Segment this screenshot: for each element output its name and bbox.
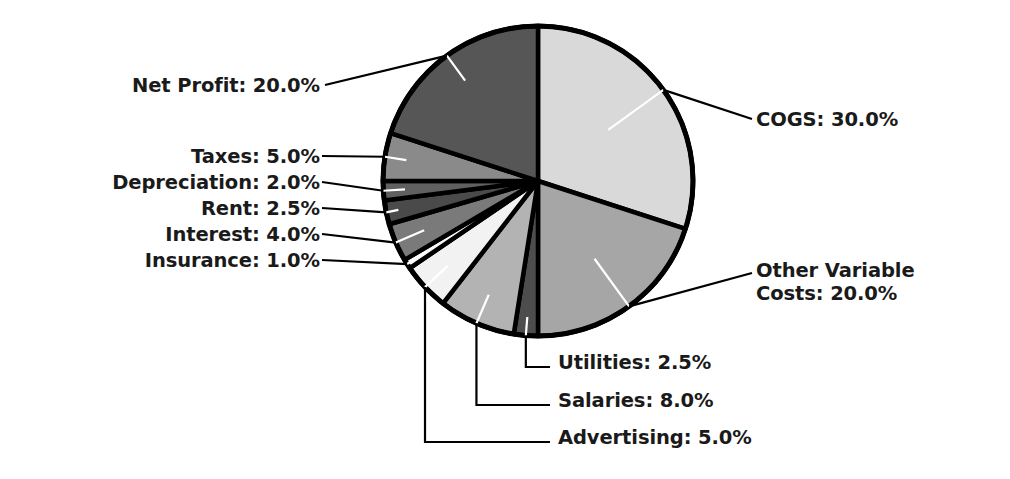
pie-slices-group xyxy=(383,26,693,336)
slice-label-rent: Rent: 2.5% xyxy=(201,197,320,220)
pie-chart-canvas xyxy=(0,0,1010,479)
pie-chart-figure: Net Profit: 20.0% Taxes: 5.0% Depreciati… xyxy=(0,0,1010,479)
leader-line-interest xyxy=(322,234,396,243)
slice-label-other-variable-costs-line1: Other Variable xyxy=(756,259,915,282)
slice-label-depreciation: Depreciation: 2.0% xyxy=(112,171,320,194)
slice-label-other-variable-costs-line2: Costs: 20.0% xyxy=(756,282,897,305)
slice-label-salaries: Salaries: 8.0% xyxy=(558,389,713,412)
leader-line-rent xyxy=(322,208,386,212)
leader-line-depreciation-inner xyxy=(383,189,405,190)
leader-line-depreciation xyxy=(322,182,383,191)
slice-label-net-profit: Net Profit: 20.0% xyxy=(132,74,320,97)
slice-label-cogs: COGS: 30.0% xyxy=(756,108,898,131)
leader-line-insurance xyxy=(322,260,407,264)
leader-line-taxes xyxy=(322,156,385,157)
slice-label-taxes: Taxes: 5.0% xyxy=(191,145,320,168)
slice-label-interest: Interest: 4.0% xyxy=(165,223,320,246)
slice-label-insurance: Insurance: 1.0% xyxy=(145,249,320,272)
slice-label-utilities: Utilities: 2.5% xyxy=(558,351,711,374)
slice-label-advertising: Advertising: 5.0% xyxy=(558,426,752,449)
leader-line-utilities xyxy=(526,336,550,367)
leader-line-utilities-inner xyxy=(526,317,527,336)
